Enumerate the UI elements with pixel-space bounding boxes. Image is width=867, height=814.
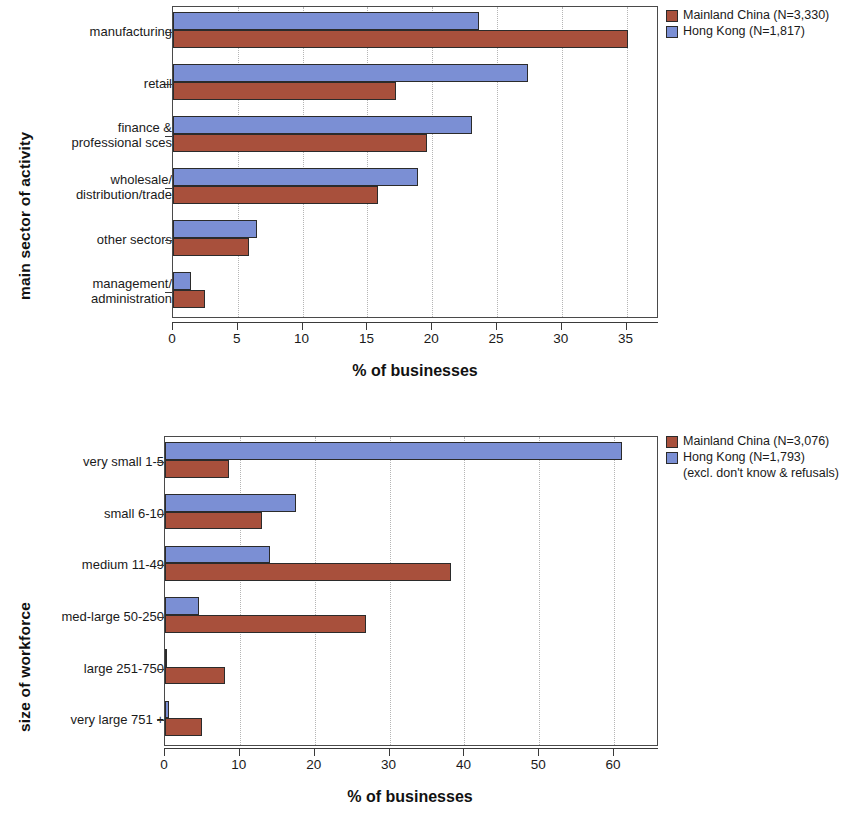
x-axis-tick [561, 323, 562, 330]
plot-area-chart-1 [172, 6, 658, 318]
bar-hong-kong [165, 442, 622, 460]
gridline [627, 7, 629, 317]
category-label: medium 11-49 [0, 558, 164, 573]
x-axis-tick-label: 0 [160, 757, 168, 772]
x-axis-title-chart-1: % of businesses [352, 362, 477, 380]
legend-swatch-icon [666, 26, 678, 38]
legend-label: Mainland China (N=3,330) [683, 8, 829, 22]
gridline [390, 437, 392, 745]
x-axis-tick-label: 20 [306, 757, 321, 772]
category-tick [157, 462, 164, 463]
x-axis-tick-label: 0 [168, 331, 176, 346]
x-axis-tick-label: 25 [488, 331, 503, 346]
category-label: manufacturing [0, 25, 172, 40]
x-axis-tick [389, 749, 390, 756]
bar-mainland-china [165, 667, 225, 685]
bar-hong-kong [165, 546, 270, 564]
x-axis-tick [302, 323, 303, 330]
category-label: very small 1-5 [0, 455, 164, 470]
x-axis-tick-label: 10 [294, 331, 309, 346]
category-tick [165, 136, 172, 137]
bar-hong-kong [165, 494, 296, 512]
category-tick [165, 84, 172, 85]
category-labels-chart-2: very small 1-5small 6-10medium 11-49med-… [0, 436, 164, 746]
x-axis-tick [237, 323, 238, 330]
x-axis-tick [626, 323, 627, 330]
gridline [614, 437, 616, 745]
category-labels-chart-1: manufacturingretailfinance & professiona… [0, 6, 172, 318]
x-axis-tick-label: 40 [456, 757, 471, 772]
x-axis-chart-1: 05101520253035 [172, 322, 658, 323]
legend-label: Hong Kong (N=1,817) [683, 24, 805, 38]
gridline [539, 437, 541, 745]
x-axis-chart-2: 0102030405060 [164, 748, 658, 749]
legend-chart-2: Mainland China (N=3,076)Hong Kong (N=1,7… [666, 434, 839, 480]
bar-mainland-china [173, 238, 249, 256]
bar-mainland-china [173, 30, 628, 48]
category-label: large 251-750 [0, 661, 164, 676]
category-tick [157, 617, 164, 618]
category-label: other sectors [0, 233, 172, 248]
x-axis-tick [314, 749, 315, 756]
bar-hong-kong [165, 701, 169, 719]
x-axis-tick [431, 323, 432, 330]
legend-swatch-icon [666, 10, 678, 22]
bar-hong-kong [173, 220, 257, 238]
bar-mainland-china [165, 563, 451, 581]
category-label: very large 751 + [0, 713, 164, 728]
bar-hong-kong [173, 272, 191, 290]
bar-hong-kong [173, 12, 479, 30]
x-axis-tick [164, 749, 165, 756]
bar-mainland-china [173, 186, 378, 204]
x-axis-tick-label: 30 [381, 757, 396, 772]
category-tick [157, 514, 164, 515]
category-tick [157, 669, 164, 670]
bar-mainland-china [173, 82, 396, 100]
x-axis-tick [613, 749, 614, 756]
chart-main-sector-of-activity: main sector of activity manufacturingret… [0, 0, 867, 400]
category-tick [165, 188, 172, 189]
x-axis-tick [538, 749, 539, 756]
gridline [367, 7, 369, 317]
category-label: med-large 50-250 [0, 610, 164, 625]
bar-hong-kong [165, 649, 167, 667]
bar-hong-kong [173, 64, 528, 82]
legend-label: Hong Kong (N=1,793) [683, 450, 805, 464]
category-label: finance & professional sces [0, 121, 172, 150]
bar-hong-kong [165, 597, 199, 615]
gridline [315, 437, 317, 745]
x-axis-tick-label: 15 [359, 331, 374, 346]
legend-item: Hong Kong (N=1,793) [666, 450, 839, 464]
bar-mainland-china [173, 134, 427, 152]
legend-item: Hong Kong (N=1,817) [666, 24, 829, 38]
category-label: small 6-10 [0, 506, 164, 521]
category-tick [165, 292, 172, 293]
gridline [432, 7, 434, 317]
bar-mainland-china [165, 512, 262, 530]
bar-mainland-china [165, 718, 202, 736]
category-tick [157, 720, 164, 721]
gridline [497, 7, 499, 317]
category-label: management/ administration [0, 277, 172, 306]
x-axis-tick-label: 5 [233, 331, 241, 346]
legend-label: Mainland China (N=3,076) [683, 434, 829, 448]
bar-mainland-china [165, 460, 229, 478]
x-axis-title-chart-2: % of businesses [347, 788, 472, 806]
x-axis-tick-label: 50 [531, 757, 546, 772]
category-tick [165, 240, 172, 241]
gridline [464, 437, 466, 745]
category-tick [157, 565, 164, 566]
x-axis-tick-label: 30 [553, 331, 568, 346]
bar-hong-kong [173, 116, 472, 134]
legend-item: Mainland China (N=3,330) [666, 8, 829, 22]
bar-mainland-china [165, 615, 366, 633]
x-axis-tick-label: 35 [618, 331, 633, 346]
legend-swatch-icon [666, 436, 678, 448]
bar-mainland-china [173, 290, 205, 308]
x-axis-tick [496, 323, 497, 330]
bar-hong-kong [173, 168, 418, 186]
gridline [238, 7, 240, 317]
legend-item: Mainland China (N=3,076) [666, 434, 839, 448]
category-tick [165, 32, 172, 33]
chart-size-of-workforce: size of workforce very small 1-5small 6-… [0, 414, 867, 814]
